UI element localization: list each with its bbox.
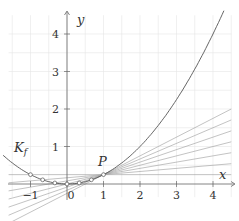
y-tick-label: 4: [52, 28, 59, 41]
secant-diagram: −1012341234 x y P Kf: [0, 0, 239, 221]
function-label: Kf: [13, 140, 29, 157]
secant-line: [9, 153, 232, 191]
tick-marks: −1012341234: [22, 28, 216, 202]
grid: [9, 15, 232, 197]
point-label: P: [97, 154, 107, 169]
x-tick-label: 2: [137, 189, 144, 202]
x-tick-label: 3: [173, 189, 180, 202]
x-tick-label: 1: [100, 189, 107, 202]
point-p-marker: [102, 173, 106, 177]
y-tick-label: 3: [52, 66, 59, 79]
secant-line: [9, 131, 232, 207]
curve-point-marker: [77, 181, 81, 185]
curve-point-marker: [53, 181, 57, 185]
x-tick-label: −1: [22, 189, 38, 202]
x-tick-label: 4: [210, 189, 217, 202]
function-curve: [3, 11, 224, 184]
curve-point-marker: [89, 178, 93, 182]
secant-line: [9, 120, 232, 215]
y-tick-label: 1: [52, 141, 59, 154]
curve-point-marker: [29, 173, 33, 177]
x-tick-label: 0: [68, 189, 75, 202]
curve-point-marker: [41, 178, 45, 182]
x-axis-label: x: [219, 167, 227, 182]
curve-point-marker: [65, 182, 69, 186]
y-axis-label: y: [76, 12, 85, 27]
secant-line: [9, 142, 232, 199]
function-label-subscript: f: [23, 147, 29, 157]
y-tick-label: 2: [52, 103, 59, 116]
